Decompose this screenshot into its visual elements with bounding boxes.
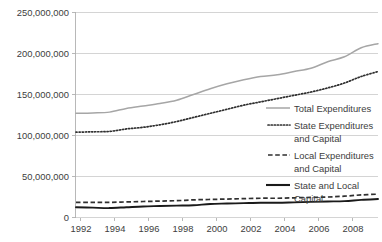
- x-tick-label-1996: 1996: [139, 223, 160, 234]
- y-tick-label-200m: 200,000,000: [17, 48, 69, 59]
- y-tick-label-50m: 50,000,000: [22, 171, 69, 182]
- x-tick-label-1992: 1992: [71, 223, 92, 234]
- x-tick-label-1994: 1994: [105, 223, 126, 234]
- x-tick-label-2006: 2006: [309, 223, 330, 234]
- x-tick-label-2004: 2004: [275, 223, 296, 234]
- line-chart: 250,000,000 200,000,000 150,000,000 100,…: [0, 0, 382, 242]
- legend-label-local-expenditures-line2: and Capital: [294, 163, 341, 174]
- y-tick-label-250m: 250,000,000: [17, 7, 69, 18]
- x-tick-label-2002: 2002: [241, 223, 262, 234]
- y-tick-label-0: 0: [64, 212, 69, 223]
- x-tick-label-2000: 2000: [207, 223, 228, 234]
- x-tick-label-1998: 1998: [173, 223, 194, 234]
- chart-legend: Total Expenditures State Expenditures an…: [266, 103, 374, 204]
- y-tick-label-100m: 100,000,000: [17, 130, 69, 141]
- legend-label-local-expenditures-line1: Local Expenditures: [294, 150, 374, 161]
- chart-container: 250,000,000 200,000,000 150,000,000 100,…: [0, 0, 382, 242]
- x-tick-label-2008: 2008: [343, 223, 364, 234]
- legend-label-state-expenditures-line1: State Expenditures: [294, 120, 374, 131]
- series-line-state-and-local-capital: [76, 199, 378, 208]
- legend-label-state-expenditures-line2: and Capital: [294, 133, 341, 144]
- x-axis-labels: 1992 1994 1996 1998 2000 2002 2004 2006 …: [71, 223, 364, 234]
- y-axis-labels: 250,000,000 200,000,000 150,000,000 100,…: [17, 7, 69, 223]
- legend-label-state-and-local-capital-line1: State and Local: [294, 180, 359, 191]
- y-tick-label-150m: 150,000,000: [17, 89, 69, 100]
- x-axis-ticks: [81, 218, 353, 221]
- legend-label-state-and-local-capital-line2: Capital: [294, 193, 323, 204]
- legend-label-total-expenditures: Total Expenditures: [294, 103, 371, 114]
